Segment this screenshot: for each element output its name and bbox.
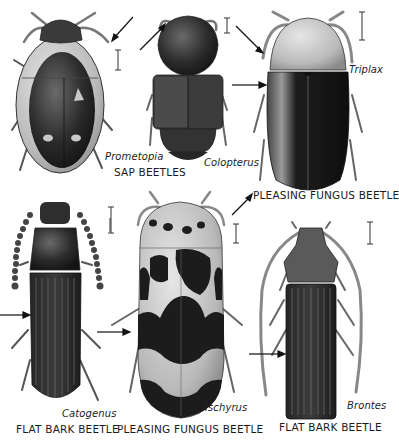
genus-label-ischyrus: Ischyrus: [205, 402, 247, 413]
beetle-ischyrus: [112, 192, 242, 418]
genus-label-triplax: Triplax: [349, 64, 383, 75]
arrow-pointer-icon: [249, 351, 285, 357]
beetle-brontes: [261, 222, 362, 419]
arrow-pointer-icon: [236, 26, 263, 53]
family-label-pleasing-fungus-beetle-bottom: PLEASING FUNGUS BEETLE: [117, 423, 263, 435]
scale-bar-icon: [233, 224, 239, 243]
beetle-prometopia: [12, 13, 112, 173]
arrow-pointer-icon: [232, 82, 266, 88]
genus-label-catogenus: Catogenus: [62, 408, 116, 419]
family-label-sap-beetles: SAP BEETLES: [114, 166, 186, 178]
family-label-flat-bark-beetle-left: FLAT BARK BEETLE: [16, 423, 119, 435]
arrow-pointer-icon: [112, 17, 133, 41]
family-label-pleasing-fungus-beetle-top: PLEASING FUNGUS BEETLE: [253, 189, 399, 201]
family-label-flat-bark-beetle-right: FLAT BARK BEETLE: [279, 421, 382, 433]
arrow-pointer-icon: [0, 312, 30, 318]
scale-bar-icon: [224, 18, 230, 33]
beetle-triplax: [254, 12, 362, 190]
genus-label-brontes: Brontes: [347, 400, 386, 411]
arrow-pointer-icon: [97, 329, 130, 335]
genus-label-prometopia: Prometopia: [105, 151, 163, 162]
arrow-pointer-icon: [232, 194, 252, 215]
beetle-catogenus: [12, 202, 104, 400]
genus-label-colopterus: Colopterus: [204, 157, 259, 168]
scale-bar-icon: [359, 12, 365, 40]
scale-bar-icon: [367, 222, 373, 244]
scale-bar-icon: [108, 207, 114, 233]
beetle-colopterus: [147, 16, 227, 160]
scale-bar-icon: [115, 50, 121, 70]
